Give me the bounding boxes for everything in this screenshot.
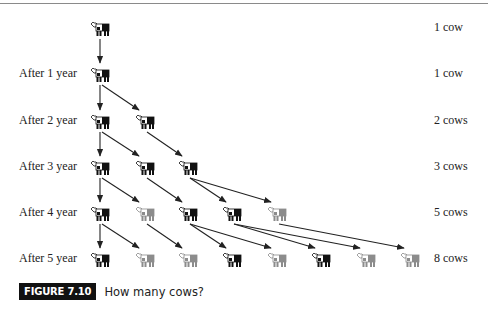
cow-icon <box>268 207 286 221</box>
cow-icon <box>179 161 197 175</box>
cow-count-label: 1 cow <box>434 66 463 81</box>
arrow <box>190 178 271 202</box>
row-label: After 4 year <box>19 205 77 220</box>
arrow <box>102 178 139 202</box>
arrow <box>147 178 182 202</box>
cow-icon <box>136 207 154 221</box>
figure-caption: FIGURE 7.10 How many cows? <box>19 283 204 300</box>
figure-badge: FIGURE 7.10 <box>19 283 96 300</box>
cow-icon <box>401 253 419 267</box>
cow-icon <box>136 253 154 267</box>
arrow <box>102 224 139 248</box>
arrow <box>102 85 139 110</box>
cow-icon <box>357 253 375 267</box>
cow-count-label: 5 cows <box>434 205 468 220</box>
cow-icon <box>91 22 109 36</box>
arrow <box>190 178 226 202</box>
cow-icon <box>136 161 154 175</box>
cow-icon <box>179 253 197 267</box>
cow-icon <box>268 253 286 267</box>
row-label: After 3 year <box>19 159 77 174</box>
arrow <box>147 224 182 248</box>
row-label: After 5 year <box>19 251 77 266</box>
cow-icon <box>91 68 109 82</box>
arrow <box>190 224 271 248</box>
cow-icon <box>91 115 109 129</box>
cow-icon <box>91 207 109 221</box>
cow-count-label: 2 cows <box>434 113 468 128</box>
cow-icon <box>91 161 109 175</box>
figure-caption-text: How many cows? <box>104 285 204 299</box>
cow-icon <box>136 115 154 129</box>
cow-count-label: 8 cows <box>434 251 468 266</box>
cow-icon <box>223 207 241 221</box>
cow-icon <box>223 253 241 267</box>
arrow <box>234 224 315 248</box>
cow-count-label: 1 cow <box>434 20 463 35</box>
arrow <box>147 132 182 156</box>
cow-icon <box>179 207 197 221</box>
arrow <box>190 224 226 248</box>
cow-icon <box>312 253 330 267</box>
row-label: After 2 year <box>19 113 77 128</box>
cow-icon <box>91 253 109 267</box>
row-label: After 1 year <box>19 66 77 81</box>
arrow <box>102 132 139 156</box>
cow-count-label: 3 cows <box>434 159 468 174</box>
